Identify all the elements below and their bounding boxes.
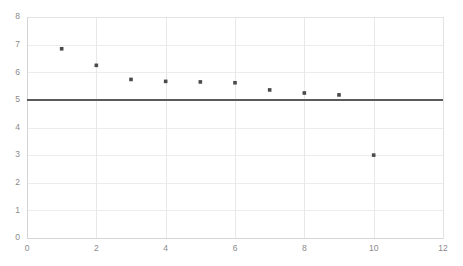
x-tick-label: 8 xyxy=(302,243,307,253)
vertical-gridlines xyxy=(28,17,444,238)
y-tick-label: 1 xyxy=(15,205,20,215)
x-tick-label: 0 xyxy=(25,243,30,253)
y-tick-label: 7 xyxy=(15,39,20,49)
x-tick-label: 10 xyxy=(369,243,379,253)
data-point xyxy=(303,91,307,95)
scatter-chart: 012345678 024681012 xyxy=(0,0,463,266)
data-point xyxy=(372,153,376,157)
x-tick-label: 12 xyxy=(438,243,448,253)
y-tick-label: 5 xyxy=(15,94,20,104)
data-point xyxy=(199,80,203,84)
x-axis-tick-labels: 024681012 xyxy=(25,243,448,253)
y-axis-tick-labels: 012345678 xyxy=(15,11,20,242)
data-point xyxy=(60,47,64,51)
x-tick-label: 6 xyxy=(233,243,238,253)
y-tick-label: 3 xyxy=(15,149,20,159)
plot-svg: 012345678 024681012 xyxy=(0,0,463,266)
y-tick-label: 4 xyxy=(15,122,20,132)
x-tick-label: 4 xyxy=(163,243,168,253)
x-tick-label: 2 xyxy=(94,243,99,253)
data-point xyxy=(129,78,133,82)
data-point xyxy=(164,80,168,84)
y-tick-label: 0 xyxy=(15,232,20,242)
data-point xyxy=(268,88,272,92)
y-tick-label: 6 xyxy=(15,67,20,77)
y-tick-label: 2 xyxy=(15,177,20,187)
data-point xyxy=(95,64,99,68)
data-point-group xyxy=(60,47,376,157)
data-point xyxy=(233,81,237,85)
y-tick-label: 8 xyxy=(15,11,20,21)
data-point xyxy=(337,93,341,97)
